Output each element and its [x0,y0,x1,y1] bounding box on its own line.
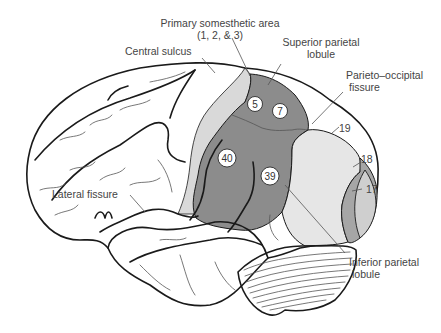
area-39-badge: 39 [261,167,279,185]
area-5-number: 5 [252,99,258,110]
superior-temporal-sulcus [130,238,262,262]
cerebellum-folia [244,252,352,310]
area-7-badge: 7 [273,104,288,119]
label-area-18: 18 [361,153,373,165]
leader-19 [332,127,339,133]
leader-primary-somesthetic [232,38,250,76]
label-superior-parietal-line2: lobule [276,48,366,60]
label-inferior-parietal-line2: lobule [349,268,419,280]
label-superior-parietal-line1: Superior parietal [276,36,366,48]
leader-central-sulcus [202,58,215,73]
area-5-badge: 5 [248,97,263,112]
label-area-17: 17 [366,183,378,195]
label-area-19: 19 [339,122,351,134]
label-central-sulcus: Central sulcus [125,45,192,57]
label-superior-parietal-lobule: Superior parietal lobule [276,36,366,60]
area-7-number: 7 [277,106,283,117]
gyrus-fold-1 [108,86,128,100]
area-39-number: 39 [264,171,276,182]
label-lateral-fissure: Lateral fissure [52,188,118,200]
label-parieto-occipital-fissure: Parieto–occipital fissure [346,69,423,93]
leader-parieto-occipital [312,92,343,124]
area-40-badge: 40 [218,149,236,167]
leader-lateral-fissure [130,195,145,212]
lateral-fissure-notch [95,212,112,218]
label-parieto-occipital-line1: Parieto–occipital [346,69,423,81]
label-inferior-parietal-lobule: Inferior parietal lobule [349,256,419,280]
label-parieto-occipital-line2: fissure [346,81,423,93]
label-inferior-parietal-line1: Inferior parietal [349,256,419,268]
label-primary-somesthetic-title: Primary somesthetic area [135,17,305,29]
brain-diagram: 5 7 40 39 [0,0,441,333]
area-40-number: 40 [221,153,233,164]
